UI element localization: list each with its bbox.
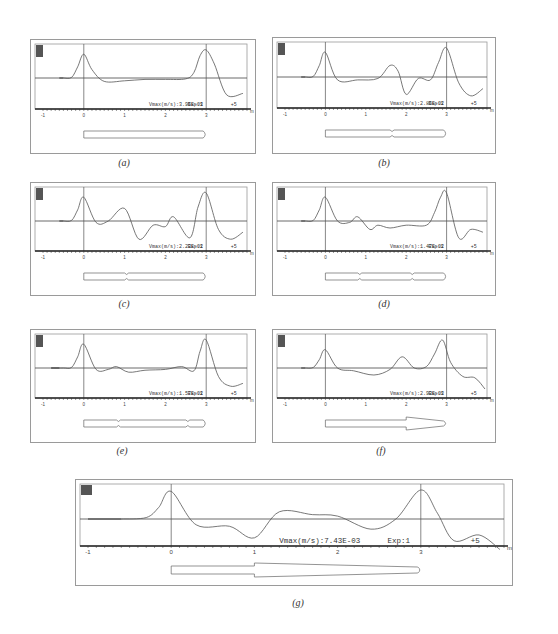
svg-text:m: m bbox=[490, 108, 494, 113]
svg-text:m: m bbox=[490, 398, 494, 403]
caption-b: (b) bbox=[364, 157, 404, 168]
panel-index-badge bbox=[81, 485, 92, 495]
svg-text:3: 3 bbox=[445, 402, 448, 407]
svg-text:1: 1 bbox=[123, 402, 126, 407]
chart-panel-b: -10123mVmax(m/s):2.85E-02Exp:1+5 bbox=[272, 37, 496, 154]
exp-label: Exp:1 bbox=[428, 101, 443, 107]
scale-label: +5 bbox=[231, 102, 237, 108]
chart-panel-e: -10123mVmax(m/s):1.57E-02Exp:1+5 bbox=[30, 329, 256, 443]
svg-text:m: m bbox=[250, 251, 254, 256]
svg-text:1: 1 bbox=[123, 255, 126, 260]
caption-d: (d) bbox=[364, 298, 404, 309]
chart-panel-d: -10123mVmax(m/s):1.47E-02Exp:1+5 bbox=[272, 182, 496, 296]
svg-text:3: 3 bbox=[419, 549, 423, 555]
panel-index-badge bbox=[278, 43, 285, 55]
plot-svg: -10123mVmax(m/s):3.95E-03Exp:1+5 bbox=[31, 40, 255, 153]
panel-index-badge bbox=[36, 45, 43, 57]
scale-label: +5 bbox=[471, 391, 477, 397]
exp-label: Exp:1 bbox=[188, 244, 203, 250]
caption-e: (e) bbox=[102, 445, 142, 456]
scale-label: +5 bbox=[471, 244, 477, 250]
svg-text:0: 0 bbox=[324, 255, 327, 260]
tube-diagram bbox=[325, 417, 445, 430]
svg-text:0: 0 bbox=[83, 255, 86, 260]
svg-text:3: 3 bbox=[445, 112, 448, 117]
svg-text:1: 1 bbox=[123, 113, 126, 118]
exp-label: Exp:1 bbox=[188, 102, 203, 108]
panel-index-badge bbox=[278, 335, 285, 347]
svg-text:2: 2 bbox=[164, 113, 167, 118]
svg-text:-1: -1 bbox=[283, 402, 287, 407]
svg-text:2: 2 bbox=[405, 255, 408, 260]
svg-text:-1: -1 bbox=[283, 255, 287, 260]
svg-text:-1: -1 bbox=[283, 112, 287, 117]
svg-text:m: m bbox=[250, 109, 254, 114]
svg-text:-1: -1 bbox=[85, 549, 91, 555]
svg-text:2: 2 bbox=[164, 402, 167, 407]
svg-text:1: 1 bbox=[365, 402, 368, 407]
svg-text:-1: -1 bbox=[41, 402, 45, 407]
chart-panel-c: -10123mVmax(m/s):2.23E-02Exp:1+5 bbox=[30, 182, 256, 296]
scale-label: +5 bbox=[471, 101, 477, 107]
velocity-curve bbox=[305, 340, 485, 389]
svg-text:0: 0 bbox=[83, 402, 86, 407]
exp-label: Exp:1 bbox=[428, 391, 443, 397]
caption-f: (f) bbox=[361, 445, 401, 456]
scale-label: +5 bbox=[471, 537, 481, 545]
velocity-curve bbox=[51, 339, 243, 386]
scale-label: +5 bbox=[231, 391, 237, 397]
plot-svg: -10123mVmax(m/s):2.85E-02Exp:1+5 bbox=[273, 38, 495, 153]
exp-label: Exp:1 bbox=[388, 537, 411, 545]
svg-text:2: 2 bbox=[336, 549, 340, 555]
velocity-curve bbox=[305, 190, 483, 239]
svg-text:1: 1 bbox=[253, 549, 257, 555]
svg-text:m: m bbox=[490, 251, 494, 256]
plot-svg: -10123mVmax(m/s):7.43E-03Exp:1+5 bbox=[76, 480, 512, 585]
plot-svg: -10123mVmax(m/s):2.93E-03Exp:1+5 bbox=[273, 330, 495, 442]
svg-text:2: 2 bbox=[405, 112, 408, 117]
svg-text:0: 0 bbox=[324, 402, 327, 407]
svg-text:2: 2 bbox=[405, 402, 408, 407]
svg-text:3: 3 bbox=[205, 255, 208, 260]
velocity-curve bbox=[63, 50, 243, 97]
scale-label: +5 bbox=[231, 244, 237, 250]
svg-text:-1: -1 bbox=[41, 255, 45, 260]
caption-g: (g) bbox=[278, 597, 318, 608]
svg-text:3: 3 bbox=[205, 402, 208, 407]
svg-text:1: 1 bbox=[365, 112, 368, 117]
tube-diagram bbox=[171, 563, 420, 577]
tube-diagram bbox=[84, 131, 205, 138]
exp-label: Exp:1 bbox=[188, 391, 203, 397]
chart-panel-g: -10123mVmax(m/s):7.43E-03Exp:1+5 bbox=[75, 479, 513, 586]
tube-diagram bbox=[84, 273, 205, 280]
caption-c: (c) bbox=[104, 298, 144, 309]
svg-text:2: 2 bbox=[164, 255, 167, 260]
tube-diagram bbox=[325, 273, 445, 280]
svg-text:0: 0 bbox=[170, 549, 174, 555]
svg-text:m: m bbox=[250, 398, 254, 403]
chart-panel-a: -10123mVmax(m/s):3.95E-03Exp:1+5 bbox=[30, 39, 256, 154]
svg-text:3: 3 bbox=[445, 255, 448, 260]
chart-panel-f: -10123mVmax(m/s):2.93E-03Exp:1+5 bbox=[272, 329, 496, 443]
plot-svg: -10123mVmax(m/s):2.23E-02Exp:1+5 bbox=[31, 183, 255, 295]
velocity-curve bbox=[63, 192, 243, 239]
vmax-label: Vmax(m/s):7.43E-03 bbox=[279, 537, 361, 545]
panel-index-badge bbox=[36, 188, 43, 200]
svg-text:1: 1 bbox=[365, 255, 368, 260]
tube-diagram bbox=[84, 420, 205, 427]
plot-svg: -10123mVmax(m/s):1.57E-02Exp:1+5 bbox=[31, 330, 255, 442]
svg-text:-1: -1 bbox=[41, 113, 45, 118]
svg-text:0: 0 bbox=[83, 113, 86, 118]
tube-diagram bbox=[325, 130, 445, 137]
exp-label: Exp:1 bbox=[428, 244, 443, 250]
svg-text:3: 3 bbox=[205, 113, 208, 118]
panel-index-badge bbox=[36, 335, 43, 347]
svg-text:m: m bbox=[507, 545, 512, 551]
panel-index-badge bbox=[278, 188, 285, 200]
velocity-curve bbox=[305, 47, 483, 96]
plot-svg: -10123mVmax(m/s):1.47E-02Exp:1+5 bbox=[273, 183, 495, 295]
caption-a: (a) bbox=[104, 157, 144, 168]
svg-text:0: 0 bbox=[324, 112, 327, 117]
